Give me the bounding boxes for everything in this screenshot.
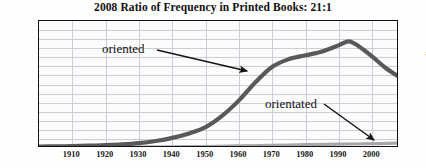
chart-title: 2008 Ratio of Frequency in Printed Books… xyxy=(0,1,426,13)
x-tick-label: 1940 xyxy=(163,149,180,159)
x-tick-label: 1910 xyxy=(63,149,80,159)
series-lines xyxy=(39,21,398,147)
x-tick-label: 1970 xyxy=(263,149,280,159)
x-tick-label: 1960 xyxy=(230,149,247,159)
x-tick-label: 1990 xyxy=(330,149,347,159)
x-tick-label: 1920 xyxy=(96,149,113,159)
x-tick-label: 1930 xyxy=(130,149,147,159)
x-tick-label: 2000 xyxy=(363,149,380,159)
series-line-oriented xyxy=(39,41,398,146)
annotation-oriented: oriented xyxy=(102,41,145,57)
x-tick-label: 1950 xyxy=(196,149,213,159)
x-tick-label: 1980 xyxy=(296,149,313,159)
annotation-orientated: orientated xyxy=(265,96,317,112)
plot-area xyxy=(38,20,398,147)
ngram-chart: 2008 Ratio of Frequency in Printed Books… xyxy=(0,0,426,168)
